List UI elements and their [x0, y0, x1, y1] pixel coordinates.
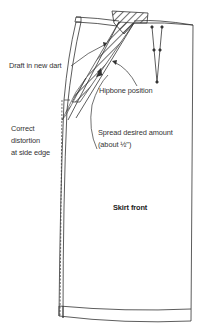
label-spread-amount-2: (about ½"): [98, 140, 131, 150]
label-hipbone-position: Hipbone position: [99, 86, 152, 96]
existing-dart: [151, 26, 163, 83]
label-correct-distortion-3: at side edge: [11, 148, 50, 158]
label-draft-new-dart: Draft in new dart: [9, 61, 62, 71]
label-skirt-front: Skirt front: [113, 203, 147, 213]
skirt-pattern-diagram: Draft in new dart Hipbone position Corre…: [0, 0, 203, 333]
label-correct-distortion-2: distortion: [11, 136, 40, 146]
label-correct-distortion-1: Correct: [11, 124, 35, 134]
label-spread-amount-1: Spread desired amount: [98, 128, 173, 138]
skirt-outline: [59, 17, 193, 322]
pattern-drawing: [0, 0, 203, 333]
